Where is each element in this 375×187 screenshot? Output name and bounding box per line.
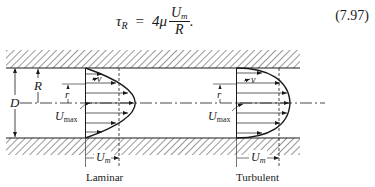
radius-dimension: R <box>33 69 44 103</box>
pipe-flow-diagram: D R r v Umax Um <box>0 40 375 187</box>
velocity-label-laminar: v <box>97 73 102 84</box>
numerator-symbol: U <box>171 5 181 20</box>
equation-7-97: τR = 4μ Um R . (7.97) <box>0 0 375 40</box>
umax-label-turbulent: Umax <box>208 109 230 124</box>
top-pipe-wall <box>6 50 300 68</box>
laminar-velocity-profile: v Umax Um Laminar <box>55 68 135 183</box>
local-radius-label: r <box>65 88 70 100</box>
tau-subscript: R <box>121 20 127 31</box>
wall-shear-equation: τR = 4μ Um R . <box>116 6 193 37</box>
equation-number: (7.97) <box>335 8 369 24</box>
diameter-dimension: D <box>9 69 20 137</box>
numerator-subscript: m <box>181 11 188 21</box>
local-radius-dimension-turbulent: r <box>213 84 236 103</box>
diameter-label: D <box>9 95 20 110</box>
umax-label-laminar: Umax <box>55 109 77 124</box>
fraction: Um R <box>169 6 190 37</box>
velocity-label-turbulent: v <box>251 74 256 85</box>
local-radius-dimension-laminar: r <box>62 84 86 103</box>
equation-period: . <box>190 13 194 30</box>
turbulent-label: Turbulent <box>236 171 279 183</box>
radius-label: R <box>33 78 42 93</box>
fraction-denominator: R <box>175 22 184 37</box>
equals-sign: = <box>135 13 143 30</box>
coefficient: 4μ <box>152 13 167 30</box>
fraction-numerator: Um <box>169 6 190 22</box>
svg-text:r: r <box>217 88 222 100</box>
laminar-label: Laminar <box>86 171 124 183</box>
